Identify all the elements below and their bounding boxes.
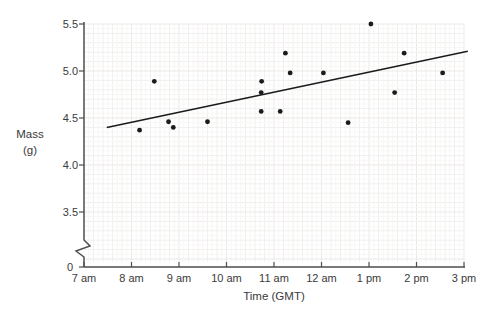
data-point — [152, 79, 157, 84]
y-tick-label-3.5: 3.5 — [52, 205, 78, 219]
data-point — [369, 22, 374, 27]
x-tick-label-8am: 8 am — [109, 271, 155, 285]
y-tick-label-5.5: 5.5 — [52, 17, 78, 31]
data-point — [283, 51, 288, 56]
data-point — [171, 125, 176, 130]
x-tick-label-11am: 11 am — [251, 271, 297, 285]
y-axis-title: Mass (g) — [1, 126, 59, 158]
data-point — [205, 119, 210, 124]
x-tick-label-2pm: 2 pm — [394, 271, 440, 285]
data-point — [392, 90, 397, 95]
y-tick-label-5.0: 5.0 — [52, 64, 78, 78]
x-axis-title: Time (GMT) — [204, 290, 344, 302]
data-point — [402, 51, 407, 56]
grid-lines — [84, 24, 464, 262]
x-tick-label-9am: 9 am — [156, 271, 202, 285]
data-point — [259, 90, 264, 95]
x-tick-label-1pm: 1 pm — [346, 271, 392, 285]
data-point — [278, 109, 283, 114]
data-point — [321, 70, 326, 75]
x-tick-label-3pm: 3 pm — [441, 271, 487, 285]
data-point — [288, 70, 293, 75]
x-tick-label-12am: 12 am — [299, 271, 345, 285]
y-axis-line-with-break — [76, 22, 90, 267]
data-point — [440, 70, 445, 75]
mass-vs-time-scatter-figure: Mass (g) Time (GMT) 5.55.04.54.03.507 am… — [0, 0, 503, 320]
x-tick-label-10am: 10 am — [204, 271, 250, 285]
y-axis-title-line1: Mass — [1, 126, 59, 142]
data-point — [259, 79, 264, 84]
y-axis-title-line2: (g) — [1, 142, 59, 158]
data-point — [259, 109, 264, 114]
x-tick-label-7am: 7 am — [61, 271, 107, 285]
data-point — [346, 120, 351, 125]
y-tick-label-4.5: 4.5 — [52, 111, 78, 125]
data-point — [137, 128, 142, 133]
data-point — [166, 119, 171, 124]
y-tick-label-4.0: 4.0 — [52, 158, 78, 172]
